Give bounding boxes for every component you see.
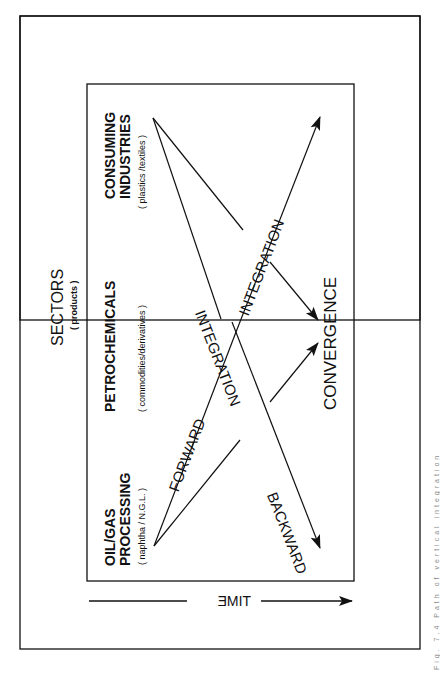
integration-line-left xyxy=(153,118,221,319)
forward-line-inner xyxy=(154,440,240,546)
sector-petrochemicals-products: ( commodities/derivatives ) xyxy=(138,305,147,412)
convergence-label: CONVERGENCE xyxy=(322,277,339,410)
time-axis-label: TIME xyxy=(218,594,251,608)
outer-frame xyxy=(20,16,420,320)
sector-oil-gas-name2: PROCESSING xyxy=(118,473,132,566)
sectors-subtitle: ( products ) xyxy=(70,281,79,331)
convergence-arrow-lower xyxy=(270,343,318,402)
sector-petrochemicals-name: PETROCHEMICALS xyxy=(103,281,117,412)
sectors-title: SECTORS xyxy=(50,269,66,346)
sector-consuming-name2: INDUSTRIES xyxy=(118,114,132,199)
sector-consuming-products: ( plastics /textiles ) xyxy=(138,135,147,209)
integration-line-right xyxy=(153,118,243,230)
sector-oil-gas-products: ( naphtha / N.G.L. ) xyxy=(138,488,147,565)
sector-oil-gas-name: OIL/GAS xyxy=(103,508,117,566)
outer-frame-bottom xyxy=(20,16,420,649)
figure-caption: Fig. 7.4 Path of vertical integration xyxy=(433,453,440,670)
sector-consuming-name: CONSUMING xyxy=(103,112,117,199)
convergence-arrow-upper xyxy=(270,262,318,320)
